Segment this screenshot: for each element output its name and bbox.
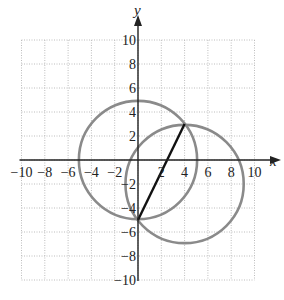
x-tick-label: −8 xyxy=(37,165,52,180)
y-tick-label: −4 xyxy=(121,201,136,216)
x-tick-label: −10 xyxy=(11,165,33,180)
x-tick-label: −2 xyxy=(107,165,122,180)
y-tick-label: 8 xyxy=(129,57,136,72)
y-tick-label: −8 xyxy=(121,249,136,264)
y-tick-label: 4 xyxy=(129,105,136,120)
y-tick-label: 6 xyxy=(129,81,136,96)
y-tick-label: −10 xyxy=(114,273,136,288)
x-tick-label: −4 xyxy=(84,165,99,180)
y-tick-label: −6 xyxy=(121,225,136,240)
x-tick-label: 6 xyxy=(204,165,211,180)
x-tick-label: 2 xyxy=(158,165,165,180)
x-tick-label: 10 xyxy=(248,165,262,180)
y-tick-label: 10 xyxy=(122,33,136,48)
x-tick-label: 8 xyxy=(228,165,235,180)
coordinate-plane: xy−10−8−6−4−2246810108642−2−4−6−8−10 xyxy=(0,0,284,300)
x-tick-label: 4 xyxy=(181,165,188,180)
y-tick-label: 2 xyxy=(129,129,136,144)
x-tick-label: −6 xyxy=(61,165,76,180)
x-axis-label: x xyxy=(269,153,277,169)
y-tick-label: −2 xyxy=(121,177,136,192)
y-axis-label: y xyxy=(132,2,141,18)
